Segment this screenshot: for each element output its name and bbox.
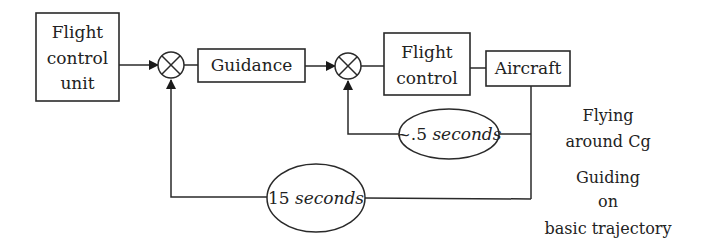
block-flight-control: Flight control — [384, 33, 470, 95]
inner-loop-time-unit: seconds — [432, 124, 501, 144]
flight-control-line2: control — [396, 68, 457, 88]
outer-loop-feedback-arrow — [171, 80, 267, 197]
flight-control-unit-line3: unit — [60, 73, 94, 93]
summing-junction-inner — [335, 53, 361, 79]
flight-control-line1: Flight — [401, 42, 453, 62]
aircraft-label: Aircraft — [494, 58, 562, 78]
block-guidance: Guidance — [198, 49, 305, 82]
annotation-around-cg: around Cg — [565, 132, 650, 151]
inner-loop-delay-ellipse: ~.5 seconds — [397, 109, 502, 159]
inner-loop-time-value: ~.5 — [397, 124, 433, 144]
guidance-label: Guidance — [211, 55, 293, 75]
annotation-on: on — [598, 192, 618, 211]
summing-junction-outer — [158, 52, 184, 78]
control-loop-diagram: Flight control unit Guidance Flight cont… — [0, 0, 703, 248]
annotation-flying: Flying — [583, 106, 634, 125]
annotation-outer-loop: Guiding on basic trajectory — [545, 168, 672, 238]
flight-control-unit-line1: Flight — [52, 22, 104, 42]
block-flight-control-unit: Flight control unit — [36, 13, 119, 101]
annotation-basic-trajectory: basic trajectory — [545, 219, 672, 238]
annotation-guiding: Guiding — [576, 168, 640, 187]
inner-loop-time-label: ~.5 seconds — [397, 124, 502, 144]
outer-loop-right-segment — [365, 198, 531, 199]
annotation-inner-loop: Flying around Cg — [565, 106, 650, 151]
outer-loop-time-value: 15 — [268, 188, 295, 208]
block-aircraft: Aircraft — [486, 51, 570, 86]
outer-loop-delay-ellipse: 15 seconds — [267, 164, 365, 232]
outer-loop-time-label: 15 seconds — [268, 188, 364, 208]
flight-control-unit-line2: control — [47, 48, 108, 68]
outer-loop-time-unit: seconds — [295, 188, 364, 208]
